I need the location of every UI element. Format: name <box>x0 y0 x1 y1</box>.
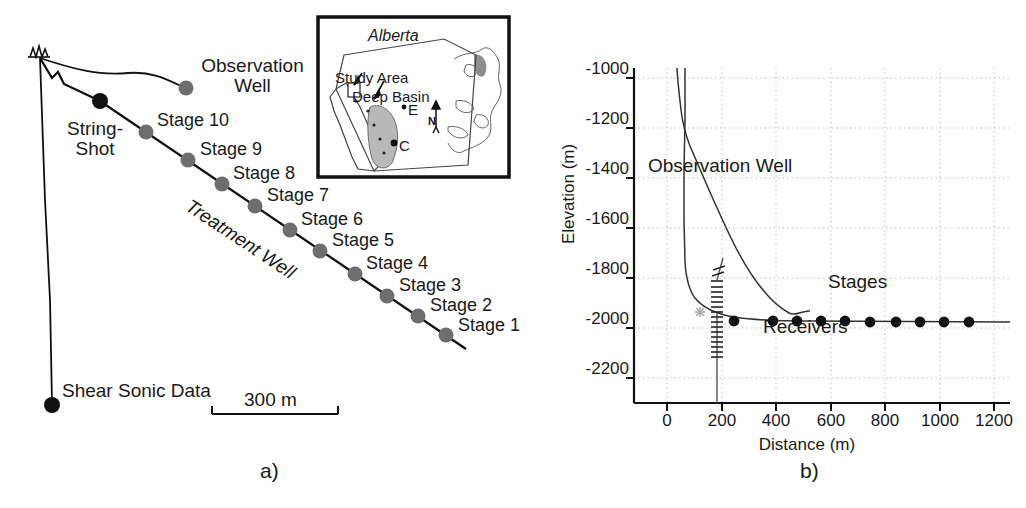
string-shot-label-line2: Shot <box>52 139 138 159</box>
observation-well-annotation: Observation Well <box>648 156 792 176</box>
stage-label-3: Stage 3 <box>399 276 461 295</box>
stage-label-8: Stage 8 <box>233 164 295 183</box>
wellhead-icon <box>28 46 50 57</box>
x-tick-label-200: 200 <box>702 412 742 430</box>
stage-point-8 <box>915 317 926 328</box>
stage-label-5: Stage 5 <box>332 231 394 250</box>
x-tick-label-400: 400 <box>756 412 796 430</box>
stage-point-9 <box>939 317 950 328</box>
figure-root: Observation Well String- Shot Stage 10 S… <box>0 0 1026 508</box>
stage-dot-10 <box>139 125 154 140</box>
stage-dot-1 <box>439 328 454 343</box>
stage-point-1 <box>729 316 740 327</box>
stage-label-2: Stage 2 <box>430 296 492 315</box>
stage-dot-3 <box>380 289 395 304</box>
x-axis-title: Distance (m) <box>747 436 867 454</box>
y-tick-label-1000: -1000 <box>563 60 629 78</box>
stage-dot-7 <box>248 199 263 214</box>
string-shot-label: String- Shot <box>52 119 138 159</box>
stage-dot-6 <box>283 223 298 238</box>
inset-province-label: Alberta <box>368 28 419 45</box>
inset-study-area-label: Study Area <box>335 70 408 86</box>
observation-well-path <box>40 58 185 88</box>
stage-label-6: Stage 6 <box>301 210 363 229</box>
panel-b-letter: b) <box>800 460 819 482</box>
stages-annotation: Stages <box>828 272 887 292</box>
stage-label-9: Stage 9 <box>200 140 262 159</box>
stage-dot-2 <box>411 309 426 324</box>
x-tick-label-800: 800 <box>865 412 905 430</box>
shear-sonic-label: Shear Sonic Data <box>62 381 211 401</box>
receivers-annotation: Receivers <box>763 317 847 337</box>
stage-point-7 <box>891 317 902 328</box>
x-axis-ticks <box>667 403 994 411</box>
axis-spines <box>634 68 1010 403</box>
north-arrow-label: N <box>428 115 436 127</box>
x-tick-label-0: 0 <box>647 412 687 430</box>
stage-point-6 <box>865 317 876 328</box>
x-tick-label-1200: 1200 <box>970 412 1018 430</box>
x-tick-label-1000: 1000 <box>916 412 964 430</box>
string-shot-marker <box>695 307 705 317</box>
string-shot-label-line1: String- <box>52 119 138 139</box>
observation-well-label-line1: Observation <box>190 56 315 76</box>
point-e-dot <box>402 105 407 110</box>
stage-dot-8 <box>215 177 230 192</box>
point-c-dot <box>391 140 398 147</box>
stage-label-10: Stage 10 <box>157 111 229 130</box>
observation-well-label-line2: Well <box>190 76 315 96</box>
stage-point-10 <box>964 317 975 328</box>
shear-sonic-dot <box>44 397 60 413</box>
grid-lines <box>634 68 1010 403</box>
stage-dot-4 <box>348 267 363 282</box>
stage-label-1: Stage 1 <box>458 316 520 335</box>
y-tick-label-2200: -2200 <box>563 360 629 378</box>
inset-point-e-label: E <box>408 102 418 118</box>
observation-well-curve <box>677 68 810 314</box>
y-axis-title: Elevation (m) <box>560 114 578 274</box>
scale-bar-label: 300 m <box>244 390 297 410</box>
string-shot-dot <box>92 93 108 109</box>
stage-dot-9 <box>181 153 196 168</box>
stage-label-4: Stage 4 <box>366 254 428 273</box>
panel-a-letter: a) <box>260 460 279 482</box>
x-tick-label-600: 600 <box>811 412 851 430</box>
stage-dot-5 <box>313 244 328 259</box>
shear-sonic-path <box>40 58 52 403</box>
receiver-markers <box>711 266 725 357</box>
observation-well-label: Observation Well <box>190 56 315 96</box>
y-tick-label-2000: -2000 <box>563 310 629 328</box>
inset-point-c-label: C <box>399 138 410 154</box>
